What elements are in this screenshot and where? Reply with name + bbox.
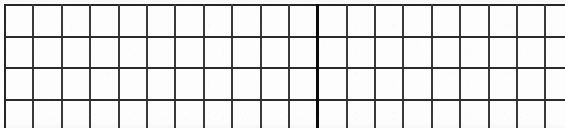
grid-cell[interactable] bbox=[375, 37, 403, 69]
grid-cell[interactable] bbox=[375, 5, 403, 37]
grid-cell[interactable] bbox=[175, 100, 203, 129]
grid-cell[interactable] bbox=[489, 37, 517, 69]
grid-cell[interactable] bbox=[403, 37, 431, 69]
grid-cell[interactable] bbox=[261, 5, 289, 37]
grid-cell[interactable] bbox=[347, 5, 375, 37]
grid-cell[interactable] bbox=[460, 68, 488, 100]
grid-row bbox=[5, 68, 565, 100]
grid-cell[interactable] bbox=[517, 37, 545, 69]
grid-cell[interactable] bbox=[90, 37, 118, 69]
grid-cell[interactable] bbox=[289, 37, 318, 69]
grid-cell[interactable] bbox=[5, 68, 33, 100]
grid-cell[interactable] bbox=[204, 68, 232, 100]
grid-cell[interactable] bbox=[403, 100, 431, 129]
grid-cell[interactable] bbox=[545, 37, 565, 69]
grid-cell[interactable] bbox=[90, 100, 118, 129]
grid-cell[interactable] bbox=[460, 37, 488, 69]
grid-cell[interactable] bbox=[403, 5, 431, 37]
grid-cell[interactable] bbox=[545, 100, 565, 129]
document-description: Blank ruled grid table with 21 columns a… bbox=[0, 0, 1, 1]
grid-cell[interactable] bbox=[517, 5, 545, 37]
grid-table[interactable] bbox=[4, 4, 565, 128]
grid-cell[interactable] bbox=[347, 68, 375, 100]
grid-cell[interactable] bbox=[232, 68, 260, 100]
grid-cell[interactable] bbox=[232, 5, 260, 37]
grid-cell[interactable] bbox=[62, 100, 90, 129]
grid-cell[interactable] bbox=[33, 37, 61, 69]
grid-cell[interactable] bbox=[119, 100, 147, 129]
grid-cell[interactable] bbox=[175, 5, 203, 37]
grid-cell[interactable] bbox=[517, 68, 545, 100]
grid-cell[interactable] bbox=[147, 5, 175, 37]
grid-cell[interactable] bbox=[147, 68, 175, 100]
grid-cell[interactable] bbox=[318, 5, 347, 37]
grid-cell[interactable] bbox=[318, 37, 347, 69]
grid-cell[interactable] bbox=[232, 100, 260, 129]
grid-cell[interactable] bbox=[232, 37, 260, 69]
grid-cell[interactable] bbox=[119, 68, 147, 100]
grid-cell[interactable] bbox=[489, 100, 517, 129]
grid-cell[interactable] bbox=[33, 5, 61, 37]
grid-cell[interactable] bbox=[289, 5, 318, 37]
grid-cell[interactable] bbox=[489, 68, 517, 100]
grid-body bbox=[5, 5, 565, 128]
grid-cell[interactable] bbox=[175, 37, 203, 69]
grid-cell[interactable] bbox=[375, 100, 403, 129]
grid-cell[interactable] bbox=[90, 68, 118, 100]
grid-cell[interactable] bbox=[432, 5, 460, 37]
page-root: Blank ruled grid table with 21 columns a… bbox=[0, 0, 565, 128]
grid-cell[interactable] bbox=[318, 68, 347, 100]
grid-cell[interactable] bbox=[119, 37, 147, 69]
grid-cell[interactable] bbox=[289, 100, 318, 129]
grid-cell[interactable] bbox=[33, 68, 61, 100]
grid-cell[interactable] bbox=[517, 100, 545, 129]
grid-cell[interactable] bbox=[175, 68, 203, 100]
grid-cell[interactable] bbox=[204, 5, 232, 37]
grid-cell[interactable] bbox=[375, 68, 403, 100]
grid-cell[interactable] bbox=[289, 68, 318, 100]
grid-cell[interactable] bbox=[5, 37, 33, 69]
grid-cell[interactable] bbox=[318, 100, 347, 129]
grid-cell[interactable] bbox=[119, 5, 147, 37]
grid-cell[interactable] bbox=[147, 37, 175, 69]
grid-cell[interactable] bbox=[62, 37, 90, 69]
grid-cell[interactable] bbox=[261, 68, 289, 100]
grid-cell[interactable] bbox=[432, 37, 460, 69]
grid-cell[interactable] bbox=[204, 37, 232, 69]
grid-cell[interactable] bbox=[432, 68, 460, 100]
grid-cell[interactable] bbox=[90, 5, 118, 37]
grid-row bbox=[5, 5, 565, 37]
grid-cell[interactable] bbox=[403, 68, 431, 100]
grid-cell[interactable] bbox=[5, 100, 33, 129]
grid-cell[interactable] bbox=[62, 5, 90, 37]
grid-cell[interactable] bbox=[147, 100, 175, 129]
grid-cell[interactable] bbox=[261, 100, 289, 129]
grid-cell[interactable] bbox=[5, 5, 33, 37]
grid-cell[interactable] bbox=[489, 5, 517, 37]
grid-cell[interactable] bbox=[204, 100, 232, 129]
grid-cell[interactable] bbox=[460, 100, 488, 129]
grid-row bbox=[5, 100, 565, 129]
grid-cell[interactable] bbox=[460, 5, 488, 37]
grid-cell[interactable] bbox=[545, 68, 565, 100]
grid-cell[interactable] bbox=[432, 100, 460, 129]
grid-cell[interactable] bbox=[347, 100, 375, 129]
grid-cell[interactable] bbox=[62, 68, 90, 100]
grid-cell[interactable] bbox=[33, 100, 61, 129]
grid-cell[interactable] bbox=[545, 5, 565, 37]
grid-cell[interactable] bbox=[261, 37, 289, 69]
grid-row bbox=[5, 37, 565, 69]
grid-cell[interactable] bbox=[347, 37, 375, 69]
